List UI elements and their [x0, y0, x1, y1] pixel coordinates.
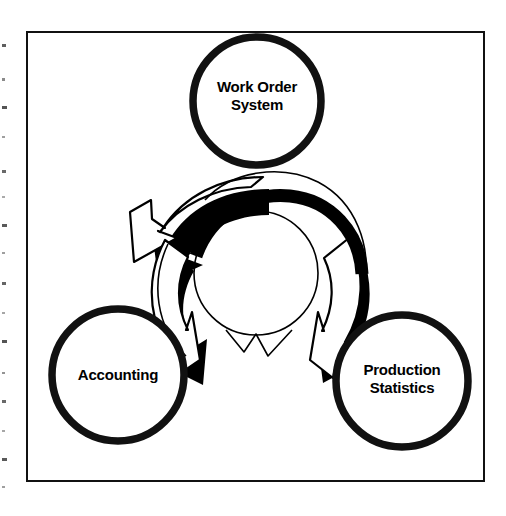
node-label-production-statistics: Production Statistics [332, 361, 472, 398]
figure-page: Work Order System Accounting Production … [0, 0, 506, 516]
node-label-work-order-system: Work Order System [187, 78, 327, 115]
node-label-line-1: Work Order [187, 78, 327, 96]
node-label-line-1: Accounting [48, 366, 188, 384]
cycle-lower-chevrons [226, 330, 292, 356]
node-label-line-1: Production [332, 361, 472, 379]
node-label-line-2: System [187, 96, 327, 114]
node-label-line-2: Statistics [332, 379, 472, 397]
node-label-accounting: Accounting [48, 366, 188, 384]
